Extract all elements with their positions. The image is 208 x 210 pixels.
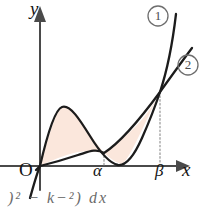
tick-label-alpha: α (93, 162, 102, 179)
tick-label-beta: β (155, 162, 163, 179)
curve-callout-2: 2 (178, 55, 198, 75)
clipped-formula-text: )² − k−²) dx (8, 192, 108, 207)
figure-root: y x O α β 1 2 )² − k−²) dx (0, 0, 208, 210)
x-axis-label: x (182, 160, 190, 179)
clipped-formula-strip: )² − k−²) dx (0, 192, 208, 210)
y-axis-label: y (30, 0, 38, 18)
origin-label: O (19, 160, 33, 179)
curve-callout-1: 1 (148, 6, 168, 26)
